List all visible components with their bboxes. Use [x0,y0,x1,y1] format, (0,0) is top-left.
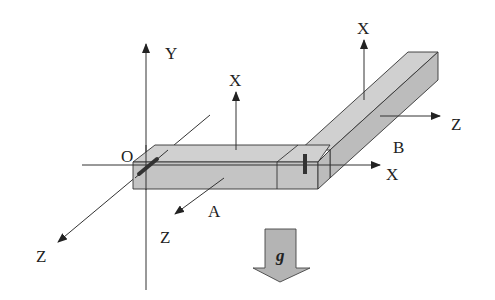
beam-a [133,145,330,189]
joint-ab-marker [303,154,307,174]
global-z-label: Z [36,247,46,266]
origin-label: O [121,147,133,166]
beam-a-label: A [208,202,221,221]
beam-b-local-z-label: Z [451,115,461,134]
gravity-label: g [275,246,285,265]
beam-diagram: Y O X Z X Z A X Z B g [0,0,495,300]
beam-a-local-x-label: X [229,71,241,90]
global-y-label: Y [165,44,177,63]
beam-b-local-x-label: X [357,19,369,38]
beam-b-label: B [393,138,404,157]
beam-a-local-z-label: Z [160,228,170,247]
global-x-label: X [386,165,398,184]
